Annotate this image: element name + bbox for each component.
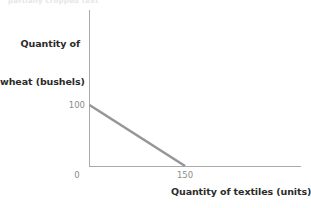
y-axis-title: Quantity of wheat (bushels) (0, 13, 80, 113)
y-axis-title-line-2: wheat (bushels) (0, 76, 80, 89)
y-tick-label-100: 100 (55, 100, 85, 110)
ppf-line (90, 105, 186, 166)
y-axis-title-line-1: Quantity of (0, 38, 80, 51)
x-tick-label-0: 0 (72, 170, 82, 180)
ppf-chart-figure: partially cropped text Quantity of wheat… (0, 0, 311, 208)
x-axis-title: Quantity of textiles (units) (171, 186, 311, 199)
x-tick-label-150: 150 (172, 170, 198, 180)
